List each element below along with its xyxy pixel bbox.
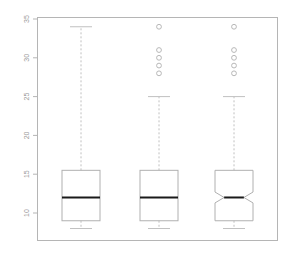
outlier-point [157,55,162,60]
boxplot-figure: 101520253035 [0,0,291,254]
outlier-point [157,48,162,53]
outlier-point [232,48,237,53]
boxplot-canvas: 101520253035 [0,0,291,254]
y-axis-tick-label: 35 [23,15,30,23]
outlier-point [157,24,162,29]
outlier-point [157,71,162,76]
outlier-point [232,63,237,68]
y-axis-tick-label: 10 [23,209,30,217]
y-axis-tick-label: 20 [23,131,30,139]
boxplot-group [62,27,100,229]
outlier-point [232,71,237,76]
outlier-point [157,63,162,68]
box [62,170,100,220]
boxplot-group [215,24,253,228]
boxplot-group [140,24,178,228]
y-axis-tick-label: 25 [23,93,30,101]
plot-frame [38,18,278,241]
outlier-point [232,24,237,29]
y-axis-tick-label: 15 [23,170,30,178]
outlier-point [232,55,237,60]
notched-box [215,170,253,220]
y-axis-tick-label: 30 [23,54,30,62]
box [140,170,178,220]
